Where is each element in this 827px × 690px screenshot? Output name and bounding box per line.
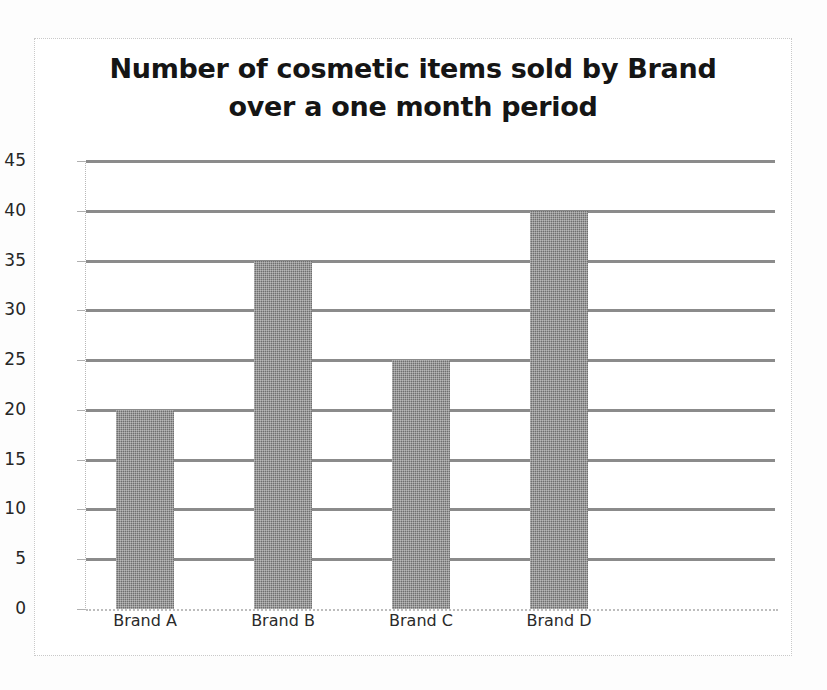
y-axis-label: 35: [0, 252, 26, 269]
bar: [116, 410, 174, 609]
y-axis-label: 10: [0, 500, 26, 517]
gridline: [86, 210, 775, 213]
bar: [392, 360, 450, 609]
x-axis-label: Brand D: [490, 613, 628, 629]
y-axis-label: 15: [0, 451, 26, 468]
bar: [254, 261, 312, 609]
y-axis-tick: [77, 509, 85, 511]
y-axis-label: 30: [0, 301, 26, 318]
x-axis-label: Brand A: [76, 613, 214, 629]
y-axis-label: 5: [0, 550, 26, 567]
y-axis-tick: [77, 360, 85, 362]
plot-area: 454035302520151050Brand ABrand BBrand CB…: [86, 161, 778, 609]
x-axis-label: Brand B: [214, 613, 352, 629]
y-axis-label: 25: [0, 351, 26, 368]
bar: [530, 211, 588, 609]
y-axis-tick: [77, 410, 85, 412]
y-axis-label: 45: [0, 152, 26, 169]
scanned-page: Number of cosmetic items sold by Brand o…: [0, 0, 827, 690]
gridline: [86, 160, 775, 163]
y-axis-tick: [77, 609, 85, 611]
gridline: [86, 260, 775, 263]
x-axis-label: Brand C: [352, 613, 490, 629]
y-axis-tick: [77, 559, 85, 561]
chart-title: Number of cosmetic items sold by Brand o…: [34, 50, 792, 126]
y-axis-tick: [77, 460, 85, 462]
y-axis-label: 0: [0, 600, 26, 617]
y-axis-tick: [77, 261, 85, 263]
gridline: [86, 309, 775, 312]
y-axis-tick: [77, 211, 85, 213]
y-axis-tick: [77, 310, 85, 312]
y-axis-label: 20: [0, 401, 26, 418]
y-axis-label: 40: [0, 202, 26, 219]
y-axis-tick: [77, 161, 85, 163]
